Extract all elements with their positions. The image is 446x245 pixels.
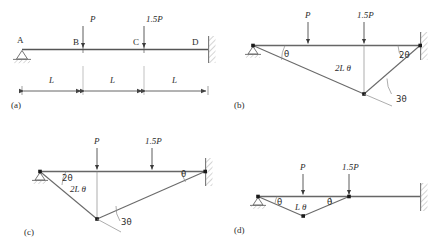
panel-label-a: (a): [11, 101, 21, 110]
fixed-support-d2: [421, 183, 428, 211]
angle-label-theta-d2: θ: [327, 198, 332, 207]
node-label-b: B: [73, 38, 79, 47]
fixed-support-d: [209, 36, 216, 63]
angle-label-theta-c: θ: [181, 170, 186, 179]
angle-label-theta-d1: θ: [277, 198, 282, 207]
angle-label-2theta-c: 2θ: [62, 174, 73, 183]
load-label-p-c: P: [94, 137, 100, 146]
panel-label-d: (d): [234, 226, 245, 235]
node-label-a: A: [17, 36, 24, 45]
pin-support-a: [13, 51, 31, 64]
load-label-p-d: P: [300, 163, 306, 172]
angle-label-3theta-c: 3θ: [121, 218, 132, 227]
load-label-p-a: P: [90, 15, 96, 24]
load-label-p-b: P: [305, 11, 311, 20]
displacement-label-b: 2L θ: [335, 64, 351, 73]
node-label-c: C: [133, 38, 139, 47]
load-label-1.5p-c: 1.5P: [145, 137, 162, 146]
panel-label-c: (c): [24, 228, 34, 237]
angle-label-2theta-b: 2θ: [399, 51, 410, 60]
angle-label-theta-b: θ: [284, 50, 289, 59]
panel-label-b: (b): [234, 101, 245, 110]
dimension-label-l3: L: [172, 76, 177, 85]
angle-label-3theta-b: 3θ: [396, 95, 407, 104]
node-label-d: D: [192, 38, 199, 47]
dimension-label-l2: L: [110, 76, 115, 85]
load-label-1.5p-b: 1.5P: [357, 11, 374, 20]
pin-support-c: [32, 173, 48, 184]
load-label-1.5p-d: 1.5P: [342, 163, 359, 172]
panel-d-drawing: [250, 174, 428, 218]
load-label-1.5p-a: 1.5P: [146, 15, 163, 24]
figure-root: A B C D P 1.5P L L L (a) P 1.5P θ 2θ 3θ …: [0, 0, 446, 245]
displacement-label-d: L θ: [295, 203, 307, 212]
displacement-label-c: 2L θ: [70, 185, 86, 194]
figure-drawing: [0, 0, 446, 245]
dimension-label-l1: L: [49, 76, 54, 85]
